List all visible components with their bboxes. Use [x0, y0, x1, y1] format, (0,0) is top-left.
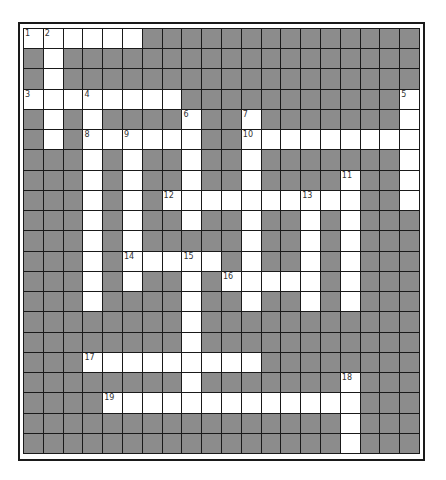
crossword-cell[interactable]	[400, 191, 419, 210]
crossword-cell[interactable]	[103, 130, 122, 149]
crossword-cell[interactable]: 10	[242, 130, 261, 149]
crossword-cell[interactable]	[182, 211, 201, 230]
crossword-cell[interactable]	[123, 90, 142, 109]
crossword-cell[interactable]	[123, 29, 142, 48]
crossword-cell[interactable]	[242, 211, 261, 230]
crossword-cell[interactable]	[123, 171, 142, 190]
crossword-cell[interactable]: 14	[123, 252, 142, 271]
crossword-cell[interactable]	[242, 191, 261, 210]
crossword-cell[interactable]	[242, 393, 261, 412]
crossword-cell[interactable]	[123, 272, 142, 291]
crossword-cell[interactable]	[123, 353, 142, 372]
crossword-cell[interactable]	[123, 393, 142, 412]
crossword-cell[interactable]	[143, 130, 162, 149]
crossword-cell[interactable]	[123, 211, 142, 230]
crossword-cell[interactable]	[182, 393, 201, 412]
crossword-cell[interactable]	[83, 272, 102, 291]
crossword-cell[interactable]	[202, 393, 221, 412]
crossword-cell[interactable]: 12	[163, 191, 182, 210]
crossword-cell[interactable]	[163, 90, 182, 109]
crossword-cell[interactable]: 7	[242, 110, 261, 129]
crossword-cell[interactable]	[400, 110, 419, 129]
crossword-cell[interactable]	[143, 90, 162, 109]
crossword-cell[interactable]	[400, 150, 419, 169]
crossword-cell[interactable]	[182, 353, 201, 372]
crossword-cell[interactable]: 6	[182, 110, 201, 129]
crossword-cell[interactable]	[400, 130, 419, 149]
crossword-cell[interactable]	[143, 393, 162, 412]
crossword-cell[interactable]	[143, 252, 162, 271]
crossword-cell[interactable]: 17	[83, 353, 102, 372]
crossword-cell[interactable]	[242, 353, 261, 372]
crossword-cell[interactable]: 11	[341, 171, 360, 190]
crossword-cell[interactable]: 8	[83, 130, 102, 149]
crossword-cell[interactable]	[182, 191, 201, 210]
crossword-cell[interactable]: 16	[222, 272, 241, 291]
crossword-cell[interactable]: 19	[103, 393, 122, 412]
crossword-cell[interactable]: 4	[83, 90, 102, 109]
crossword-cell[interactable]	[44, 69, 63, 88]
crossword-cell[interactable]	[44, 49, 63, 68]
crossword-cell[interactable]	[341, 252, 360, 271]
crossword-cell[interactable]: 15	[182, 252, 201, 271]
crossword-cell[interactable]	[341, 434, 360, 453]
crossword-cell[interactable]	[301, 272, 320, 291]
crossword-cell[interactable]	[222, 191, 241, 210]
crossword-cell[interactable]	[44, 110, 63, 129]
crossword-cell[interactable]	[64, 29, 83, 48]
crossword-cell[interactable]	[44, 130, 63, 149]
crossword-cell[interactable]	[64, 90, 83, 109]
crossword-cell[interactable]	[341, 231, 360, 250]
crossword-cell[interactable]	[182, 272, 201, 291]
crossword-cell[interactable]	[143, 353, 162, 372]
crossword-cell[interactable]	[301, 211, 320, 230]
crossword-cell[interactable]	[83, 29, 102, 48]
crossword-cell[interactable]	[182, 130, 201, 149]
crossword-cell[interactable]	[83, 292, 102, 311]
crossword-cell[interactable]	[281, 272, 300, 291]
crossword-cell[interactable]	[44, 90, 63, 109]
crossword-cell[interactable]	[301, 231, 320, 250]
crossword-cell[interactable]	[361, 130, 380, 149]
crossword-cell[interactable]	[321, 393, 340, 412]
crossword-cell[interactable]	[301, 292, 320, 311]
crossword-cell[interactable]	[341, 414, 360, 433]
crossword-cell[interactable]: 13	[301, 191, 320, 210]
crossword-cell[interactable]	[182, 333, 201, 352]
crossword-cell[interactable]	[163, 353, 182, 372]
crossword-cell[interactable]: 2	[44, 29, 63, 48]
crossword-cell[interactable]	[163, 393, 182, 412]
crossword-cell[interactable]	[242, 171, 261, 190]
crossword-cell[interactable]	[262, 130, 281, 149]
crossword-cell[interactable]	[242, 252, 261, 271]
crossword-cell[interactable]	[341, 191, 360, 210]
crossword-cell[interactable]	[83, 252, 102, 271]
crossword-cell[interactable]	[321, 130, 340, 149]
crossword-cell[interactable]: 9	[123, 130, 142, 149]
crossword-cell[interactable]	[242, 272, 261, 291]
crossword-cell[interactable]: 3	[24, 90, 43, 109]
crossword-cell[interactable]	[242, 231, 261, 250]
crossword-cell[interactable]	[281, 130, 300, 149]
crossword-cell[interactable]	[262, 191, 281, 210]
crossword-cell[interactable]: 18	[341, 373, 360, 392]
crossword-cell[interactable]	[321, 191, 340, 210]
crossword-cell[interactable]	[242, 150, 261, 169]
crossword-cell[interactable]	[182, 373, 201, 392]
crossword-cell[interactable]	[341, 211, 360, 230]
crossword-cell[interactable]	[83, 231, 102, 250]
crossword-cell[interactable]	[83, 211, 102, 230]
crossword-cell[interactable]: 5	[400, 90, 419, 109]
crossword-cell[interactable]	[103, 353, 122, 372]
crossword-cell[interactable]	[262, 393, 281, 412]
crossword-cell[interactable]	[123, 231, 142, 250]
crossword-cell[interactable]	[123, 191, 142, 210]
crossword-cell[interactable]	[182, 312, 201, 331]
crossword-cell[interactable]	[301, 252, 320, 271]
crossword-cell[interactable]	[341, 292, 360, 311]
crossword-cell[interactable]	[341, 272, 360, 291]
crossword-cell[interactable]	[202, 191, 221, 210]
crossword-cell[interactable]	[400, 171, 419, 190]
crossword-cell[interactable]	[301, 130, 320, 149]
crossword-cell[interactable]	[182, 150, 201, 169]
